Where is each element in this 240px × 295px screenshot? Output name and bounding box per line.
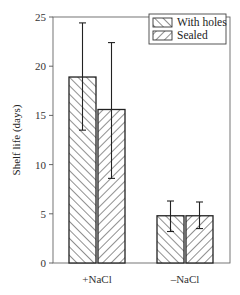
- legend-label-sealed: Sealed: [177, 29, 208, 41]
- x-category-label: +NaCl: [82, 273, 111, 285]
- legend: With holes Sealed: [149, 14, 227, 44]
- y-tick-label: 15: [35, 109, 47, 121]
- x-axis-labels: +NaCl–NaCl: [82, 273, 199, 285]
- legend-label-with-holes: With holes: [177, 16, 227, 28]
- y-axis-title: Shelf life (days): [10, 104, 23, 175]
- y-axis: 0510152025: [35, 11, 53, 269]
- x-category-label: –NaCl: [170, 273, 200, 285]
- y-tick-label: 5: [41, 208, 47, 220]
- y-tick-label: 0: [41, 257, 47, 269]
- y-tick-label: 20: [35, 60, 47, 72]
- legend-swatch-sealed: [153, 31, 172, 40]
- legend-swatch-with-holes: [153, 18, 172, 27]
- y-tick-label: 10: [35, 159, 47, 171]
- bars: [69, 23, 213, 263]
- y-tick-label: 25: [35, 11, 47, 23]
- bar-chart: 0510152025 +NaCl–NaCl Shelf life (days) …: [0, 0, 240, 295]
